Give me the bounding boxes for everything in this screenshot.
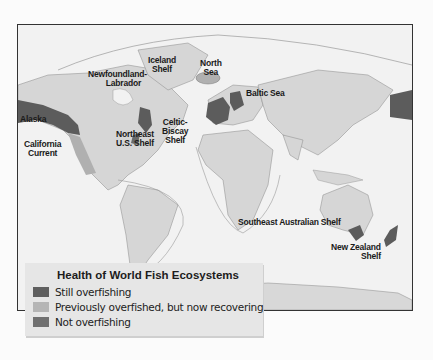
legend-title: Health of World Fish Ecosystems bbox=[57, 269, 239, 281]
south-america bbox=[120, 185, 178, 275]
legend-item-not-overfishing: Not overfishing bbox=[33, 316, 131, 328]
swatch-still-overfishing bbox=[33, 287, 49, 297]
swatch-recovering bbox=[33, 302, 49, 312]
label-newfoundland-labrador: Newfoundland- Labrador bbox=[88, 70, 147, 88]
label-celtic-biscay-shelf: Celtic- Biscay Shelf bbox=[162, 118, 188, 145]
label-california-current: California Current bbox=[24, 140, 61, 158]
legend: Health of World Fish Ecosystems Still ov… bbox=[25, 263, 263, 336]
legend-item-still-overfishing: Still overfishing bbox=[33, 286, 131, 298]
label-southeast-australian-shelf: Southeast Australian Shelf bbox=[238, 218, 341, 227]
label-alaska: Alaska bbox=[20, 115, 46, 124]
legend-item-recovering: Previously overfished, but now recoverin… bbox=[33, 301, 263, 313]
swatch-not-overfishing bbox=[33, 317, 49, 327]
kamchatka-zone bbox=[390, 90, 412, 120]
label-northeast-us-shelf: Northeast U.S. Shelf bbox=[116, 130, 154, 148]
label-north-sea: North Sea bbox=[200, 59, 222, 77]
asia bbox=[258, 70, 393, 155]
africa bbox=[198, 130, 273, 230]
label-baltic-sea: Baltic Sea bbox=[246, 89, 285, 98]
label-new-zealand-shelf: New Zealand Shelf bbox=[331, 243, 381, 261]
new-zealand-zone bbox=[384, 225, 398, 247]
label-iceland-shelf: Iceland Shelf bbox=[148, 56, 176, 74]
australia bbox=[320, 185, 373, 235]
